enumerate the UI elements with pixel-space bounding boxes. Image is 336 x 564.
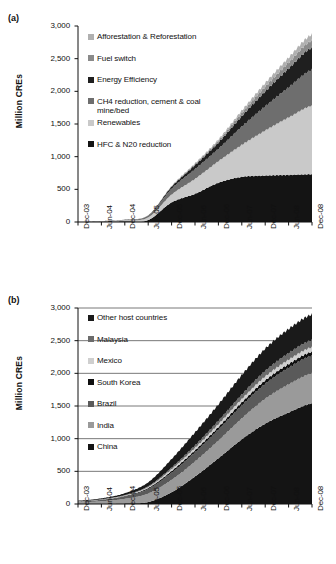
x-tick-label: Jun-06 — [199, 205, 208, 229]
legend-item: South Korea — [88, 378, 140, 388]
legend-label: India — [97, 421, 114, 431]
x-tick-label: Dec-03 — [82, 486, 91, 511]
y-tick-label: 3,000 — [26, 21, 70, 30]
y-tick-label: 500 — [26, 466, 70, 475]
x-tick-label: Dec-04 — [128, 486, 137, 511]
legend-swatch-icon — [88, 141, 94, 147]
x-tick-label: Dec-08 — [316, 204, 325, 229]
legend-item: Energy Efficiency — [88, 75, 157, 85]
legend-swatch-icon — [88, 98, 94, 104]
x-tick-label: Dec-04 — [128, 204, 137, 229]
legend-item: India — [88, 421, 114, 431]
legend-swatch-icon — [88, 379, 94, 385]
x-tick-label: Dec-05 — [175, 486, 184, 511]
legend-item: Brazil — [88, 399, 116, 409]
x-tick-label: Dec-06 — [222, 204, 231, 229]
legend-item: Mexico — [88, 356, 122, 366]
panel-b-legend: Other host countriesMalaysiaMexicoSouth … — [88, 313, 268, 473]
legend-swatch-icon — [88, 55, 94, 61]
x-tick-label: Dec-08 — [316, 486, 325, 511]
chart-panel-b: (b) Million CREs Other host countriesMal… — [0, 282, 336, 564]
legend-label: Malaysia — [97, 335, 128, 345]
x-tick-label: Jun-04 — [105, 205, 114, 229]
x-tick-label: Jun-08 — [292, 205, 301, 229]
legend-item: Renewables — [88, 118, 140, 128]
chart-panel-a: (a) Million CREs Afforestation & Refores… — [0, 0, 336, 282]
x-tick-label: Jun-07 — [245, 487, 254, 511]
x-tick-label: Dec-07 — [269, 204, 278, 229]
x-tick-label: Jun-08 — [292, 487, 301, 511]
x-tick-label: Jun-05 — [152, 487, 161, 511]
legend-item: Other host countries — [88, 313, 167, 323]
legend-label: Mexico — [97, 356, 122, 366]
legend-label: Afforestation & Reforestation — [97, 32, 196, 42]
legend-label: HFC & N20 reduction — [97, 140, 171, 150]
legend-item: CH4 reduction, cement & coal mine/bed — [88, 97, 200, 116]
y-tick-label: 0 — [26, 499, 70, 508]
legend-swatch-icon — [88, 422, 94, 428]
legend-label: Renewables — [97, 118, 140, 128]
x-tick-label: Dec-05 — [175, 204, 184, 229]
legend-label: Energy Efficiency — [97, 75, 157, 85]
legend-swatch-icon — [88, 77, 94, 83]
legend-item: Malaysia — [88, 335, 128, 345]
x-tick-label: Dec-03 — [82, 204, 91, 229]
legend-item: HFC & N20 reduction — [88, 140, 171, 150]
y-tick-label: 2,500 — [26, 336, 70, 345]
figure: (a) Million CREs Afforestation & Refores… — [0, 0, 336, 564]
legend-swatch-icon — [88, 120, 94, 126]
legend-label: CH4 reduction, cement & coal mine/bed — [97, 97, 200, 116]
legend-swatch-icon — [88, 336, 94, 342]
y-tick-label: 0 — [26, 217, 70, 226]
x-tick-label: Jun-05 — [152, 205, 161, 229]
legend-swatch-icon — [88, 358, 94, 364]
y-tick-label: 2,500 — [26, 54, 70, 63]
legend-label: Other host countries — [97, 313, 167, 323]
y-tick-label: 3,000 — [26, 303, 70, 312]
x-tick-label: Jun-06 — [199, 487, 208, 511]
legend-swatch-icon — [88, 444, 94, 450]
legend-swatch-icon — [88, 315, 94, 321]
y-tick-label: 1,500 — [26, 119, 70, 128]
x-tick-label: Jun-04 — [105, 487, 114, 511]
legend-label: South Korea — [97, 378, 140, 388]
y-tick-label: 1,000 — [26, 434, 70, 443]
y-tick-label: 1,500 — [26, 401, 70, 410]
legend-label: Fuel switch — [97, 54, 136, 64]
x-tick-label: Dec-06 — [222, 486, 231, 511]
y-tick-label: 2,000 — [26, 86, 70, 95]
legend-label: China — [97, 442, 117, 452]
x-tick-label: Dec-07 — [269, 486, 278, 511]
panel-a-legend: Afforestation & ReforestationFuel switch… — [88, 32, 268, 192]
y-tick-label: 1,000 — [26, 152, 70, 161]
y-tick-label: 500 — [26, 184, 70, 193]
legend-item: Fuel switch — [88, 54, 136, 64]
legend-swatch-icon — [88, 401, 94, 407]
y-tick-label: 2,000 — [26, 368, 70, 377]
legend-label: Brazil — [97, 399, 116, 409]
x-tick-label: Jun-07 — [245, 205, 254, 229]
legend-item: China — [88, 442, 117, 452]
legend-item: Afforestation & Reforestation — [88, 32, 196, 42]
legend-swatch-icon — [88, 34, 94, 40]
